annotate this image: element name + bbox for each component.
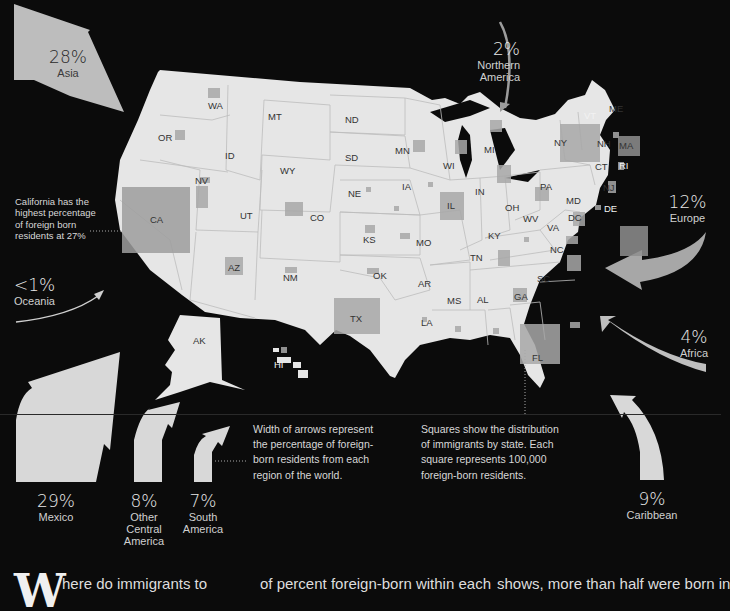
state-label-wv: WV [523, 213, 538, 224]
squares-note-line: Squares show the distribution [421, 422, 559, 437]
central-america-region-line3: America [120, 535, 168, 547]
state-label-vt: VT [584, 110, 596, 121]
state-label-wa: WA [208, 100, 223, 111]
state-label-ne: NE [348, 188, 361, 199]
asia-percent: 28% [42, 48, 94, 67]
state-label-tx: TX [350, 313, 362, 324]
divider [0, 414, 721, 415]
state-label-ky: KY [488, 230, 501, 241]
mexico-arrow [16, 352, 120, 482]
state-label-wy: WY [280, 165, 295, 176]
arrows-note-line: region of the world. [253, 468, 373, 483]
state-label-mi: MI [484, 144, 495, 155]
state-label-ar: AR [418, 278, 431, 289]
state-label-al: AL [477, 294, 489, 305]
squares-note-line: foreign-born residents. [421, 468, 559, 483]
oceania-label: <1% Oceania [14, 276, 64, 307]
state-label-nh: NH [597, 138, 611, 149]
state-label-sd: SD [345, 152, 358, 163]
article-column-2: of percent foreign-born within each [260, 575, 491, 592]
south-america-region-line1: South [180, 511, 226, 523]
state-label-co: CO [310, 212, 324, 223]
south-america-region-line2: America [180, 523, 226, 535]
caribbean-percent: 9% [620, 490, 684, 509]
state-label-va: VA [547, 222, 559, 233]
state-label-ut: UT [240, 210, 253, 221]
europe-label: 12% Europe [660, 193, 715, 224]
africa-region: Africa [672, 347, 716, 359]
state-label-mn: MN [395, 145, 410, 156]
africa-percent: 4% [672, 328, 716, 347]
state-label-ri: RI [619, 160, 629, 171]
state-label-sc: SC [537, 273, 550, 284]
state-label-mt: MT [268, 111, 282, 122]
state-label-dc: DC [568, 212, 582, 223]
alaska-shape [155, 315, 245, 400]
state-label-in: IN [475, 186, 485, 197]
state-label-mo: MO [416, 237, 431, 248]
state-label-ga: GA [514, 291, 528, 302]
central-america-percent: 8% [120, 492, 168, 511]
south-america-arrow [194, 426, 230, 482]
asia-label: 28% Asia [42, 48, 94, 79]
state-label-de: DE [604, 203, 617, 214]
state-label-or: OR [158, 132, 172, 143]
state-label-ma: MA [619, 140, 633, 151]
state-label-hi: HI [274, 359, 284, 370]
state-label-nm: NM [283, 272, 298, 283]
mexico-label: 29% Mexico [30, 492, 82, 523]
arrows-note-line: born residents from each [253, 452, 373, 467]
arrows-width-note: Width of arrows represent the percentage… [253, 422, 373, 483]
state-label-ak: AK [193, 335, 206, 346]
state-label-nj: NJ [603, 182, 615, 193]
south-america-label: 7% South America [180, 492, 226, 535]
state-label-ms: MS [447, 295, 461, 306]
squares-note: Squares show the distribution of immigra… [421, 422, 559, 483]
northern-america-region-line1: Northern [440, 59, 520, 71]
state-label-oh: OH [505, 202, 519, 213]
state-label-nc: NC [550, 244, 564, 255]
caribbean-arrow [610, 395, 664, 480]
central-america-label: 8% Other Central America [120, 492, 168, 547]
state-label-wi: WI [443, 160, 455, 171]
mexico-region: Mexico [30, 511, 82, 523]
california-note-line: of foreign born [15, 219, 96, 230]
europe-region: Europe [660, 212, 715, 224]
central-america-region-line1: Other [120, 511, 168, 523]
asia-region: Asia [42, 67, 94, 79]
state-label-la: LA [421, 317, 433, 328]
oceania-region: Oceania [14, 295, 64, 307]
state-label-ia: IA [402, 181, 411, 192]
state-label-ks: KS [363, 234, 376, 245]
state-label-nd: ND [345, 114, 359, 125]
south-america-percent: 7% [180, 492, 226, 511]
california-note-line: residents at 27% [15, 230, 96, 241]
northern-america-region-line2: America [440, 71, 520, 83]
state-label-ct: CT [595, 161, 608, 172]
article-dropcap: W [14, 568, 66, 611]
squares-note-line: of immigrants by state. Each [421, 437, 559, 452]
northern-america-label: 2% Northern America [440, 40, 520, 83]
article-column-1: here do immigrants to [62, 575, 207, 592]
state-label-fl: FL [532, 352, 543, 363]
state-label-ny: NY [554, 137, 567, 148]
state-label-tn: TN [470, 252, 483, 263]
europe-percent: 12% [660, 193, 715, 212]
state-label-me: ME [609, 103, 623, 114]
northern-america-percent: 2% [440, 40, 520, 59]
caribbean-label: 9% Caribbean [620, 490, 684, 521]
squares-note-line: square represents 100,000 [421, 452, 559, 467]
state-label-nv: NV [195, 175, 208, 186]
arrows-note-line: the percentage of foreign- [253, 437, 373, 452]
california-note: California has the highest percentage of… [15, 196, 96, 242]
state-label-ok: OK [373, 270, 387, 281]
mexico-percent: 29% [30, 492, 82, 511]
state-label-az: AZ [228, 262, 240, 273]
state-label-pa: PA [540, 181, 552, 192]
california-note-line: highest percentage [15, 207, 96, 218]
central-america-region-line2: Central [120, 523, 168, 535]
state-label-ca: CA [150, 214, 163, 225]
state-label-id: ID [225, 150, 235, 161]
caribbean-region: Caribbean [620, 509, 684, 521]
